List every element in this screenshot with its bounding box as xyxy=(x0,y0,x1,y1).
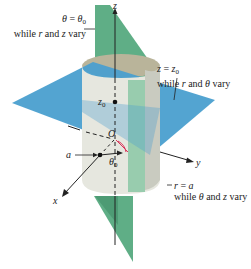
origin-label: O xyxy=(108,128,115,139)
radius-label: a xyxy=(66,149,71,160)
y-axis-text: y xyxy=(196,157,200,168)
z0-label: z0 xyxy=(98,96,105,111)
y-axis-arrow xyxy=(186,158,194,164)
z-plane-label: z = z0 while r and θ vary xyxy=(157,63,230,89)
y-axis xyxy=(160,152,191,161)
z-axis-text: z xyxy=(113,0,117,11)
z-plane-description: while r and θ vary xyxy=(157,78,230,89)
cylinder-label: r = a while θ and z vary xyxy=(174,180,247,202)
y-axis-label: y xyxy=(196,157,200,168)
cylinder-description: while θ and z vary xyxy=(174,191,247,202)
x-axis-text: x xyxy=(53,195,57,206)
theta-plane-label: θ = θ0 while r and z vary xyxy=(10,13,86,39)
z0-point xyxy=(113,100,118,105)
z-axis-label: z xyxy=(113,0,117,11)
theta-plane-equation: θ = θ0 xyxy=(10,13,86,28)
z-plane-equation: z = z0 xyxy=(157,63,230,78)
x-axis-label: x xyxy=(53,195,57,206)
angle-label: θ0 xyxy=(109,156,117,171)
cylinder-equation: r = a xyxy=(174,180,247,191)
cylindrical-coordinates-diagram xyxy=(0,0,251,269)
point-a xyxy=(98,153,103,158)
theta-plane-description: while r and z vary xyxy=(10,28,86,39)
